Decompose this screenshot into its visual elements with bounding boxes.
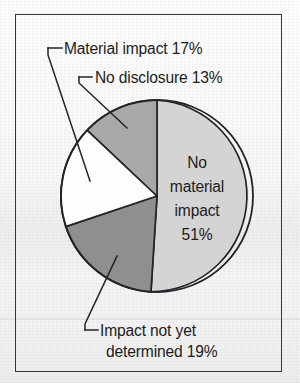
label-no-material-impact-line2: material — [170, 178, 224, 195]
label-no-disclosure: No disclosure 13% — [95, 69, 223, 86]
pie-chart-figure: Material impact 17% No disclosure 13% Im… — [0, 0, 300, 383]
label-no-material-impact-line3: impact — [174, 202, 220, 219]
label-no-material-impact-line4: 51% — [182, 226, 213, 243]
label-impact-not-yet-determined-line1: Impact not yet — [100, 322, 197, 339]
label-no-material-impact-line1: No — [187, 154, 207, 171]
pie-chart-svg: Material impact 17% No disclosure 13% Im… — [0, 0, 300, 383]
pie-slice-no-material-impact[interactable] — [151, 100, 247, 292]
label-impact-not-yet-determined-line2: determined 19% — [106, 343, 218, 360]
label-material-impact: Material impact 17% — [64, 40, 203, 57]
